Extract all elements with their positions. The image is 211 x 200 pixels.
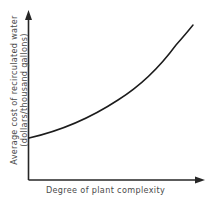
y-axis-label-line-1-text: Average cost of recirculated water <box>9 0 19 180</box>
x-axis-label: Degree of plant complexity <box>0 185 211 195</box>
chart-figure: Average cost of recirculated water (doll… <box>0 0 211 200</box>
y-axis-label-line-2-text: (dollars/thousand gallons) <box>19 0 29 180</box>
y-axis-label-line-2: (dollars/thousand gallons) <box>19 0 199 180</box>
y-axis-label: Average cost of recirculated water (doll… <box>0 0 28 180</box>
